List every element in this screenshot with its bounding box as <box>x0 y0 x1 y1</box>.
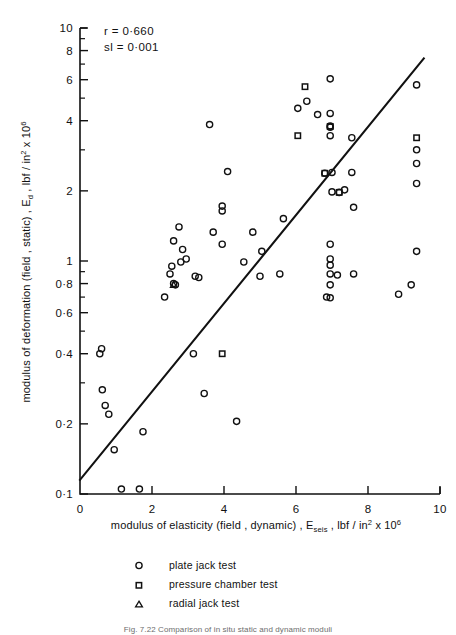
legend-label-1: pressure chamber test <box>169 578 278 590</box>
data-point-circle <box>167 271 173 277</box>
legend-item-plate-jack-test: plate jack test <box>136 559 236 571</box>
data-point-circle <box>225 168 231 174</box>
x-tick-label: 8 <box>365 503 372 515</box>
legend-label-2: radial jack test <box>169 597 239 609</box>
x-tick-label: 0 <box>77 503 84 515</box>
data-point-circle <box>315 111 321 117</box>
data-point-circle <box>102 402 108 408</box>
data-point-circle <box>219 241 225 247</box>
y-axis-title: modulus of deformation (field , static) … <box>19 121 35 402</box>
data-point-circle <box>327 241 333 247</box>
data-point-circle <box>334 272 340 278</box>
triangle-marker <box>136 601 143 607</box>
data-point-circle <box>169 263 175 269</box>
data-point-circle <box>210 229 216 235</box>
data-point-circle <box>304 98 310 104</box>
y-tick-label: 2 <box>66 185 73 197</box>
data-point-square <box>414 135 419 140</box>
data-point-circle <box>176 224 182 230</box>
data-point-circle <box>327 271 333 277</box>
data-point-circle <box>327 133 333 139</box>
annotation-correlation: r = 0·660 <box>104 25 154 37</box>
y-tick-label: 0·4 <box>55 348 73 360</box>
legend-item-radial-jack-test: radial jack test <box>136 597 240 609</box>
data-point-circle <box>414 180 420 186</box>
data-point-circle <box>414 82 420 88</box>
data-point-circle <box>351 204 357 210</box>
legend: plate jack test pressure chamber test ra… <box>136 559 278 609</box>
y-tick-label: 0·1 <box>55 488 73 500</box>
data-point-circle <box>241 259 247 265</box>
annotation-significance: sl = 0·001 <box>104 41 159 53</box>
data-point-circle <box>180 246 186 252</box>
data-point-square <box>295 133 300 138</box>
data-point-circle <box>280 216 286 222</box>
data-point-circle <box>140 429 146 435</box>
data-point-circle <box>327 282 333 288</box>
data-point-circle <box>351 271 357 277</box>
circle-marker <box>136 562 142 568</box>
y-tick-label: 10 <box>60 22 73 34</box>
data-point-circle <box>257 273 263 279</box>
trendline <box>80 58 424 479</box>
data-point-circle <box>183 256 189 262</box>
data-point-circle <box>234 418 240 424</box>
data-point-circle <box>99 387 105 393</box>
data-point-circle <box>408 282 414 288</box>
data-points-group <box>97 76 420 492</box>
y-tick-label: 8 <box>66 45 73 57</box>
data-point-circle <box>250 229 256 235</box>
data-point-circle <box>327 110 333 116</box>
axes-group <box>80 28 440 494</box>
legend-label-0: plate jack test <box>169 559 236 571</box>
data-point-circle <box>111 447 117 453</box>
data-point-circle <box>136 486 142 492</box>
tick-labels-group: 10864210·80·60·40·20·10246810 <box>55 22 446 515</box>
data-point-circle <box>201 390 207 396</box>
scatter-plot: 10864210·80·60·40·20·10246810 r = 0·660 … <box>0 0 456 635</box>
y-tick-label: 0·8 <box>55 278 73 290</box>
x-axis-title: modulus of elasticity (field , dynamic) … <box>111 518 401 534</box>
y-tick-label: 6 <box>66 74 73 86</box>
legend-item-pressure-chamber-test: pressure chamber test <box>136 578 277 590</box>
data-point-circle <box>349 135 355 141</box>
data-point-square <box>220 351 225 356</box>
square-marker <box>136 583 141 588</box>
data-point-circle <box>190 351 196 357</box>
data-point-circle <box>295 105 301 111</box>
x-tick-label: 4 <box>221 503 228 515</box>
y-tick-label: 0·2 <box>55 418 73 430</box>
y-tick-label: 1 <box>66 255 73 267</box>
data-point-circle <box>118 486 124 492</box>
data-point-circle <box>327 256 333 262</box>
x-tick-label: 6 <box>293 503 300 515</box>
data-point-circle <box>162 294 168 300</box>
data-point-circle <box>327 76 333 82</box>
data-point-circle <box>349 169 355 175</box>
x-tick-label: 2 <box>149 503 156 515</box>
data-point-circle <box>396 291 402 297</box>
data-point-circle <box>414 147 420 153</box>
y-tick-label: 4 <box>66 115 73 127</box>
data-point-circle <box>329 189 335 195</box>
data-point-circle <box>414 160 420 166</box>
figure-caption: Fig. 7.22 Comparison of in situ static a… <box>124 625 333 634</box>
figure-container: 10864210·80·60·40·20·10246810 r = 0·660 … <box>0 0 456 635</box>
y-tick-label: 0·6 <box>55 307 73 319</box>
data-point-circle <box>277 271 283 277</box>
data-point-circle <box>414 248 420 254</box>
data-point-circle <box>327 262 333 268</box>
data-point-square <box>302 84 307 89</box>
data-point-circle <box>106 411 112 417</box>
data-point-circle <box>171 238 177 244</box>
x-tick-label: 10 <box>433 503 446 515</box>
data-point-circle <box>207 121 213 127</box>
